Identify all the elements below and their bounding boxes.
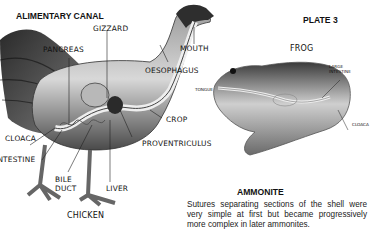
label-pancreas: PANCREAS bbox=[43, 45, 84, 54]
label-large-intestine-2: INTESTINE bbox=[329, 69, 351, 74]
chicken-heading: ALIMENTARY CANAL bbox=[16, 11, 104, 21]
label-mouth: MOUTH bbox=[180, 44, 209, 53]
label-frog-cloaca: CLOACA bbox=[352, 122, 369, 127]
label-crop: CROP bbox=[166, 115, 187, 124]
chicken-illustration bbox=[0, 5, 214, 205]
plate-label: PLATE 3 bbox=[303, 15, 338, 25]
chicken-caption: CHICKEN bbox=[67, 211, 104, 220]
label-tongue: TONGUE bbox=[195, 87, 213, 92]
label-oesophagus: OESOPHAGUS bbox=[145, 66, 199, 75]
label-gizzard: GIZZARD bbox=[93, 24, 128, 33]
label-bile-duct-2: DUCT bbox=[55, 184, 77, 193]
label-intestine: INTESTINE bbox=[0, 155, 35, 164]
frog-illustration bbox=[214, 62, 351, 155]
ammonite-description: Sutures separating sections of the shell… bbox=[187, 200, 367, 231]
label-cloaca: CLOACA bbox=[5, 134, 36, 143]
frog-caption: FROG bbox=[290, 44, 313, 53]
ammonite-heading: AMMONITE bbox=[237, 187, 284, 197]
label-liver: LIVER bbox=[106, 184, 128, 193]
label-proventriculus: PROVENTRICULUS bbox=[142, 139, 212, 148]
label-bile-duct-1: BILE bbox=[55, 175, 72, 184]
